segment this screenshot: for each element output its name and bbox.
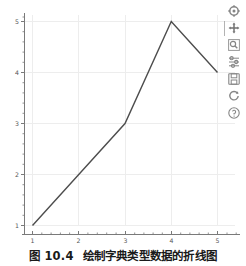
caption-figure-number: 图 10.4 — [29, 247, 74, 263]
x-tick-label: 3 — [124, 237, 128, 244]
y-tick-label: 3 — [15, 120, 19, 127]
figure-caption: 图 10.4 绘制字典类型数据的折线图 — [0, 244, 246, 266]
help-icon[interactable] — [225, 105, 243, 121]
toolbar-separator-row — [223, 20, 245, 36]
pan-move-icon[interactable] — [225, 20, 243, 36]
caption-text: 绘制字典类型数据的折线图 — [83, 247, 217, 263]
refresh-icon[interactable] — [225, 88, 243, 104]
save-icon[interactable] — [225, 71, 243, 87]
figure-toolbar[interactable] — [223, 3, 245, 125]
x-tick-label: 5 — [216, 237, 220, 244]
y-tick-label: 2 — [15, 171, 19, 178]
x-tick-label: 1 — [31, 237, 35, 244]
y-tick-label: 1 — [15, 222, 19, 229]
line-chart-canvas: 1 2 3 4 5 1 2 3 4 5 — [0, 0, 246, 244]
configure-subplots-icon[interactable] — [225, 54, 243, 70]
y-tick-label: 4 — [15, 69, 19, 76]
x-tick-label: 4 — [170, 237, 174, 244]
zoom-rect-icon[interactable] — [225, 37, 243, 53]
y-tick-label: 5 — [15, 18, 19, 25]
x-tick-label: 2 — [77, 237, 81, 244]
matplotlib-figure: 1 2 3 4 5 1 2 3 4 5 — [0, 0, 246, 244]
home-icon[interactable] — [225, 3, 243, 19]
figure-background — [0, 0, 246, 244]
